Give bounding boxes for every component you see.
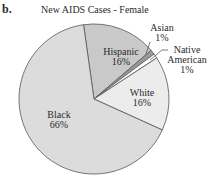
- label-asian: Asian 1%: [147, 23, 177, 43]
- label-asian-pct: 1%: [147, 33, 177, 43]
- label-hispanic: Hispanic 16%: [96, 47, 146, 67]
- label-white-pct: 16%: [122, 98, 162, 108]
- label-native-american: Native American 1%: [162, 45, 212, 75]
- label-white: White 16%: [122, 88, 162, 108]
- pie-chart: [0, 0, 214, 184]
- label-black: Black 66%: [39, 110, 79, 130]
- label-native-pct: 1%: [162, 65, 212, 75]
- label-hispanic-pct: 16%: [96, 57, 146, 67]
- label-black-pct: 66%: [39, 120, 79, 130]
